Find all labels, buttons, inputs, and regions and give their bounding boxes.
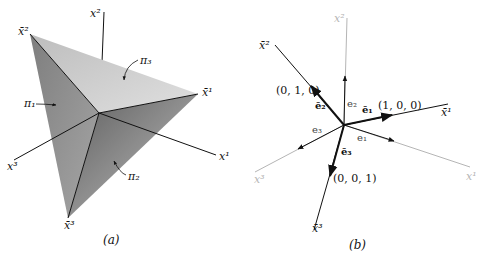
point-100-label: (1, 0, 0) xyxy=(378,99,422,112)
point-001-label: (0, 0, 1) xyxy=(333,172,377,185)
vector-ebar1-arrow xyxy=(344,115,392,125)
vertex-xbar3-label: x̄³ xyxy=(64,219,75,232)
axis-xbar3-label: x̄³ xyxy=(312,222,323,235)
panel-a: x² x̄² x̄¹ x̄³ x¹ x³ π₃ π₁ π₂ (a) xyxy=(7,7,230,247)
axis-x1-label: x¹ xyxy=(219,150,230,163)
axis-x2-label: x² xyxy=(334,12,345,25)
vector-ebar3-label: ē₃ xyxy=(341,146,352,157)
plane-pi3-label: π₃ xyxy=(139,54,152,67)
vector-ebar2-label: ē₂ xyxy=(315,100,326,111)
axis-x3-label: x³ xyxy=(254,173,265,186)
point-010-label: (0, 1, 0) xyxy=(276,84,320,97)
axis-xbar2-label: x̄² xyxy=(259,39,270,52)
axis-x2-label: x² xyxy=(90,7,101,20)
plane-pi1-label: π₁ xyxy=(23,97,36,110)
axis-x1-label: x¹ xyxy=(466,170,477,183)
axis-xbar1-label: x̄¹ xyxy=(441,106,452,119)
panel-b: x² x¹ x³ x̄² x̄¹ x̄³ ē₂ ē₁ ē₃ e₂ e₁ e₃ (… xyxy=(254,12,477,252)
vector-ebar1-label: ē₁ xyxy=(362,104,373,115)
plane-pi2-label: π₂ xyxy=(127,170,140,183)
vector-e1-label: e₁ xyxy=(357,132,367,143)
vector-e2-label: e₂ xyxy=(347,98,357,109)
axis-x3-label: x³ xyxy=(7,160,18,173)
vertex-xbar1-label: x̄¹ xyxy=(202,86,213,99)
panel-b-caption: (b) xyxy=(349,238,366,252)
panel-a-caption: (a) xyxy=(103,233,120,247)
vertex-xbar2-label: x̄² xyxy=(18,25,29,38)
diagram-canvas: x² x̄² x̄¹ x̄³ x¹ x³ π₃ π₁ π₂ (a) x² x¹ … xyxy=(0,0,481,264)
vector-e2-arrow xyxy=(344,76,345,125)
vector-e1-arrow xyxy=(344,125,394,141)
vector-e3-label: e₃ xyxy=(312,124,322,135)
